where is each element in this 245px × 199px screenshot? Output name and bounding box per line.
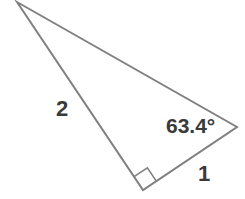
right-angle-square-icon [134,168,156,181]
angle-measure-label: 63.4° [166,115,215,136]
side-length-label-2: 2 [56,98,68,120]
side-length-label-1: 1 [198,163,210,185]
triangle-diagram: 2 1 63.4° [0,0,245,199]
